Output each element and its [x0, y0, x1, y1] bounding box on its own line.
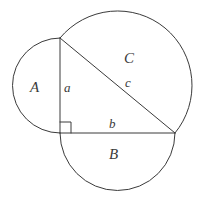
label-segment-c: c	[125, 76, 131, 89]
semicircle-c-arc	[60, 11, 192, 133]
pythagorean-semicircles-figure: A a b B C c	[0, 0, 204, 199]
label-semicircle-c: C	[124, 51, 134, 66]
label-semicircle-b: B	[109, 147, 118, 162]
label-semicircle-a: A	[30, 80, 39, 95]
label-segment-b: b	[109, 117, 116, 130]
segment-c-line	[60, 38, 175, 133]
label-segment-a: a	[64, 81, 71, 94]
right-angle-marker	[60, 122, 71, 133]
geometry-canvas	[0, 0, 204, 199]
